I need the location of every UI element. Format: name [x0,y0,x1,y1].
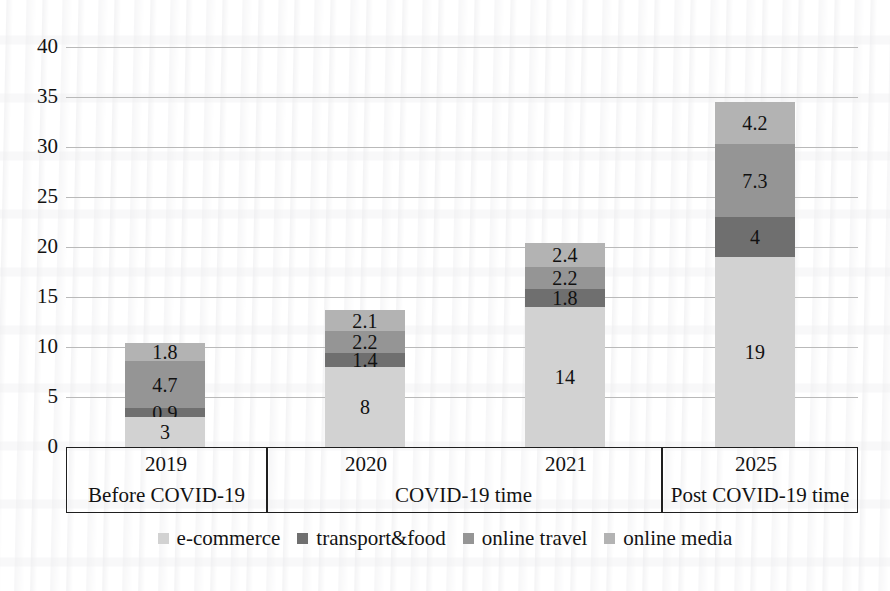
y-axis-tick-label: 40 [14,36,58,57]
bar-segment-value: 4.2 [742,113,768,133]
plot-area: 1.84.70.932.12.21.482.42.21.8144.27.3419 [66,47,858,447]
bar-2020[interactable]: 2.12.21.48 [325,310,405,447]
legend-swatch-icon [297,533,308,544]
axis-year-label-2020: 2020 [316,448,416,481]
legend-swatch-icon [158,533,169,544]
bar-segment-value: 2.1 [352,311,378,331]
legend-item-e-commerce[interactable]: e-commerce [158,528,281,549]
y-axis-tick-label: 10 [14,336,58,357]
y-axis-tick-label: 5 [14,386,58,407]
axis-year-label-2021: 2021 [516,448,616,481]
bar-2019[interactable]: 1.84.70.93 [125,343,205,447]
bar-segment-value: 14 [555,367,575,387]
bar-segment-value: 1.8 [152,342,178,362]
axis-period-label: Post COVID-19 time [671,483,850,508]
bar-segment-value: 4 [750,227,760,247]
bar-2025[interactable]: 4.27.3419 [715,102,795,447]
bar-segment-value: 8 [360,397,370,417]
bar-segment-transport-food[interactable]: 0.9 [125,408,205,417]
y-axis-tick-label: 30 [14,136,58,157]
bar-segment-value: 2.2 [552,268,578,288]
axis-group-covid-19-time: 20202021COVID-19 time [266,448,661,512]
legend-label: transport&food [316,528,445,549]
axis-group-before-covid-19: 2019Before COVID-19 [67,448,266,512]
bar-segment-online-media[interactable]: 1.8 [125,343,205,361]
y-axis-tick-label: 25 [14,186,58,207]
bar-segment-e-commerce[interactable]: 19 [715,257,795,447]
legend-item-online-travel[interactable]: online travel [463,528,588,549]
axis-period-row: Before COVID-19 [67,479,266,512]
bar-segment-transport-food[interactable]: 4 [715,217,795,257]
gridline [66,47,858,48]
bar-segment-online-media[interactable]: 4.2 [715,102,795,144]
axis-year-label-2025: 2025 [706,448,806,481]
axis-group-post-covid-19-time: 2025Post COVID-19 time [661,448,859,512]
bar-segment-online-media[interactable]: 2.1 [325,310,405,331]
axis-period-row: COVID-19 time [266,479,661,512]
axis-period-label: Before COVID-19 [88,483,245,508]
bar-segment-value: 1.8 [552,288,578,308]
bar-segment-value: 2.4 [552,245,578,265]
bar-2021[interactable]: 2.42.21.814 [525,243,605,447]
legend-label: online media [623,528,732,549]
axis-year-row: 20202021 [266,448,661,481]
axis-year-label-2019: 2019 [116,448,216,481]
y-axis-tick-label: 0 [14,436,58,457]
bar-segment-value: 3 [160,422,170,442]
bar-segment-e-commerce[interactable]: 14 [525,307,605,447]
legend-label: online travel [482,528,588,549]
axis-period-label: COVID-19 time [395,483,532,508]
stacked-bar-chart: 0510152025303540 1.84.70.932.12.21.482.4… [0,0,890,591]
legend-item-online-media[interactable]: online media [604,528,732,549]
chart-legend: e-commercetransport&foodonline travelonl… [0,528,890,549]
axis-group-divider [661,448,663,512]
bar-segment-online-travel[interactable]: 2.2 [525,267,605,289]
legend-item-transport-food[interactable]: transport&food [297,528,445,549]
bar-segment-e-commerce[interactable]: 8 [325,367,405,447]
bar-segment-value: 4.7 [152,375,178,395]
bar-segment-transport-food[interactable]: 1.4 [325,353,405,367]
bar-segment-online-media[interactable]: 2.4 [525,243,605,267]
y-axis-tick-label: 35 [14,86,58,107]
bar-segment-value: 7.3 [742,171,768,191]
gridline [66,97,858,98]
bar-segment-transport-food[interactable]: 1.8 [525,289,605,307]
axis-year-row: 2019 [67,448,266,481]
legend-swatch-icon [604,533,615,544]
axis-year-row: 2025 [661,448,859,481]
y-axis-tick-label: 15 [14,286,58,307]
y-axis: 0510152025303540 [0,47,58,447]
bar-segment-e-commerce[interactable]: 3 [125,417,205,447]
legend-label: e-commerce [177,528,281,549]
bar-segment-online-travel[interactable]: 7.3 [715,144,795,217]
y-axis-tick-label: 20 [14,236,58,257]
legend-swatch-icon [463,533,474,544]
axis-period-row: Post COVID-19 time [661,479,859,512]
bar-segment-value: 19 [745,342,765,362]
bar-segment-online-travel[interactable]: 4.7 [125,361,205,408]
axis-group-divider [266,448,268,512]
category-axis: 2019Before COVID-1920202021COVID-19 time… [66,447,858,513]
